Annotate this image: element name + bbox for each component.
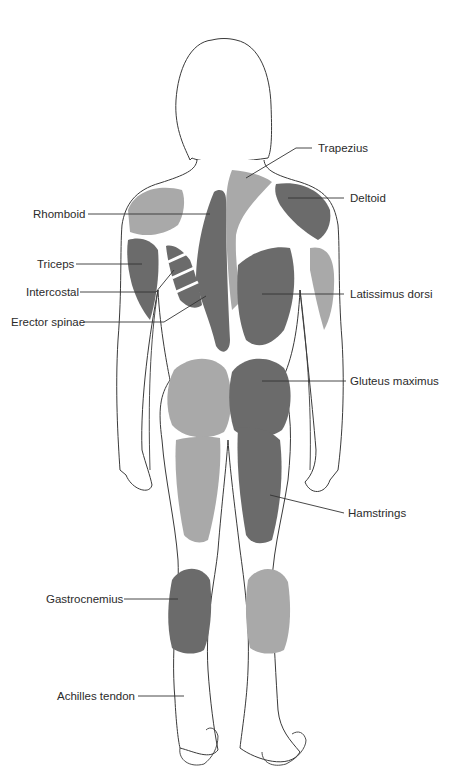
label-achilles-tendon: Achilles tendon (57, 689, 135, 703)
head-outline (176, 39, 272, 162)
label-latissimus-dorsi: Latissimus dorsi (350, 287, 432, 301)
label-hamstrings: Hamstrings (348, 506, 406, 520)
right-gastrocnemius-muscle (246, 569, 290, 654)
left-gluteus-muscle (167, 359, 231, 438)
posterior-muscle-figure (0, 0, 461, 782)
right-gluteus-muscle (229, 359, 290, 438)
label-trapezius: Trapezius (318, 141, 368, 155)
label-rhomboid: Rhomboid (33, 207, 85, 221)
left-gastrocnemius-muscle (168, 569, 211, 654)
label-intercostal: Intercostal (26, 285, 79, 299)
label-gastrocnemius: Gastrocnemius (46, 592, 123, 606)
label-gluteus-maximus: Gluteus maximus (350, 374, 439, 388)
label-erector-spinae: Erector spinae (11, 315, 85, 329)
label-deltoid: Deltoid (350, 191, 386, 205)
label-triceps: Triceps (37, 257, 74, 271)
